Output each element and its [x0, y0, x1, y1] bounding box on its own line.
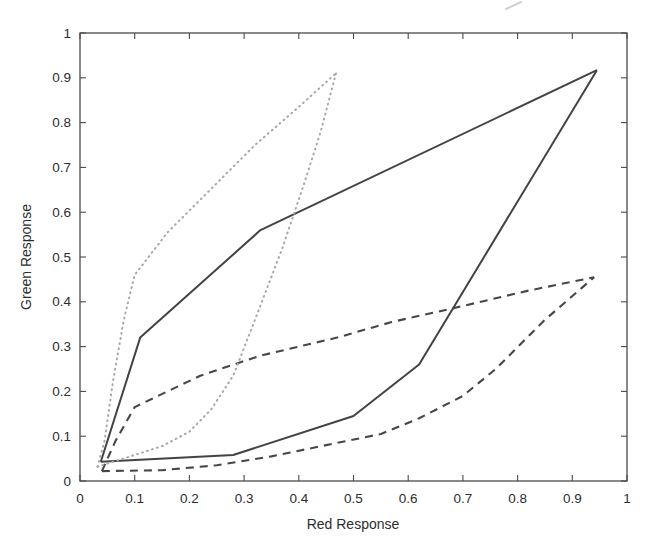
y-tick-label: 0.2	[52, 384, 71, 399]
y-tick-label: 0.9	[52, 70, 71, 85]
x-tick-label: 1	[623, 491, 631, 506]
y-tick-label: 0.4	[52, 294, 71, 309]
y-tick-label: 0	[63, 474, 71, 489]
x-tick-label: 0.9	[563, 491, 582, 506]
scan-artifact	[506, 2, 521, 9]
x-tick-label: 0.1	[125, 491, 144, 506]
y-tick-label: 0.1	[52, 429, 71, 444]
y-tick-label: 0.7	[52, 160, 71, 175]
y-tick-labels: 00.10.20.30.40.50.60.70.80.91	[52, 26, 71, 489]
x-tick-label: 0.6	[399, 491, 418, 506]
y-axis-label: Green Response	[18, 204, 34, 310]
x-tick-label: 0.7	[454, 491, 473, 506]
solid-loop-upper-line	[101, 70, 597, 462]
y-tick-label: 1	[63, 26, 71, 41]
plot-box	[80, 33, 627, 481]
x-axis-label: Red Response	[307, 516, 400, 532]
x-ticks	[80, 33, 627, 481]
y-tick-label: 0.3	[52, 339, 71, 354]
x-tick-labels: 00.10.20.30.40.50.60.70.80.91	[76, 491, 631, 506]
y-tick-label: 0.6	[52, 205, 71, 220]
x-tick-label: 0.5	[344, 491, 363, 506]
y-tick-label: 0.8	[52, 115, 71, 130]
x-tick-label: 0.2	[180, 491, 199, 506]
x-tick-label: 0.8	[508, 491, 527, 506]
y-tick-label: 0.5	[52, 250, 71, 265]
y-ticks	[80, 33, 627, 481]
series-lines	[98, 70, 597, 471]
solid-loop-lower-line	[101, 70, 597, 462]
x-tick-label: 0	[76, 491, 84, 506]
x-tick-label: 0.4	[289, 491, 308, 506]
x-tick-label: 0.3	[235, 491, 254, 506]
chart-canvas: 00.10.20.30.40.50.60.70.80.91 00.10.20.3…	[0, 0, 663, 558]
figure: 00.10.20.30.40.50.60.70.80.91 00.10.20.3…	[0, 0, 663, 558]
